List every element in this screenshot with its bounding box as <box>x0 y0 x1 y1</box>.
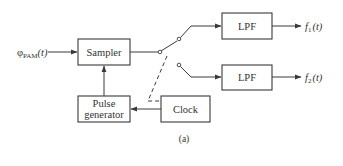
input-signal-label: φPAM(t) <box>17 47 48 60</box>
clock-block: Clock <box>161 96 210 122</box>
switch-upper-contact <box>177 37 181 41</box>
sampler-block: Sampler <box>78 39 130 65</box>
switch-to-lpf1-wire <box>181 26 222 38</box>
switch-lower-contact <box>177 63 181 67</box>
demultiplexer-block-diagram: φPAM(t) Sampler Pulse generator Clock LP… <box>0 0 343 166</box>
commutator-switch <box>158 37 181 67</box>
lpf1-block: LPF <box>222 13 272 39</box>
pulse-generator-label-line2: generator <box>84 109 124 120</box>
lpf2-block: LPF <box>222 65 272 90</box>
pulse-generator-block: Pulse generator <box>78 96 130 122</box>
switch-arm <box>161 41 177 51</box>
switch-pivot-contact <box>158 50 162 54</box>
switch-to-lpf2-wire <box>181 67 222 78</box>
output1-label: f1(t) <box>305 21 323 34</box>
lpf1-label: LPF <box>238 21 256 32</box>
output2-label: f2(t) <box>305 72 323 85</box>
clock-sync-dashed-line <box>148 56 167 101</box>
sampler-label: Sampler <box>87 47 122 58</box>
pulse-generator-label-line1: Pulse <box>93 98 116 109</box>
figure-caption: (a) <box>179 134 190 145</box>
clock-label: Clock <box>173 104 199 115</box>
lpf2-label: LPF <box>238 72 256 83</box>
